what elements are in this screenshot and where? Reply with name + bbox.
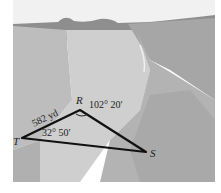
vertex-label-T: T — [13, 135, 20, 147]
canyon-triangle-figure: R T S 582 yd 102° 20′ 32° 50′ — [0, 0, 221, 193]
angle-label-R: 102° 20′ — [89, 99, 123, 110]
angle-label-T: 32° 50′ — [42, 127, 71, 138]
vertex-label-S: S — [150, 147, 156, 159]
vertex-label-R: R — [75, 94, 83, 106]
